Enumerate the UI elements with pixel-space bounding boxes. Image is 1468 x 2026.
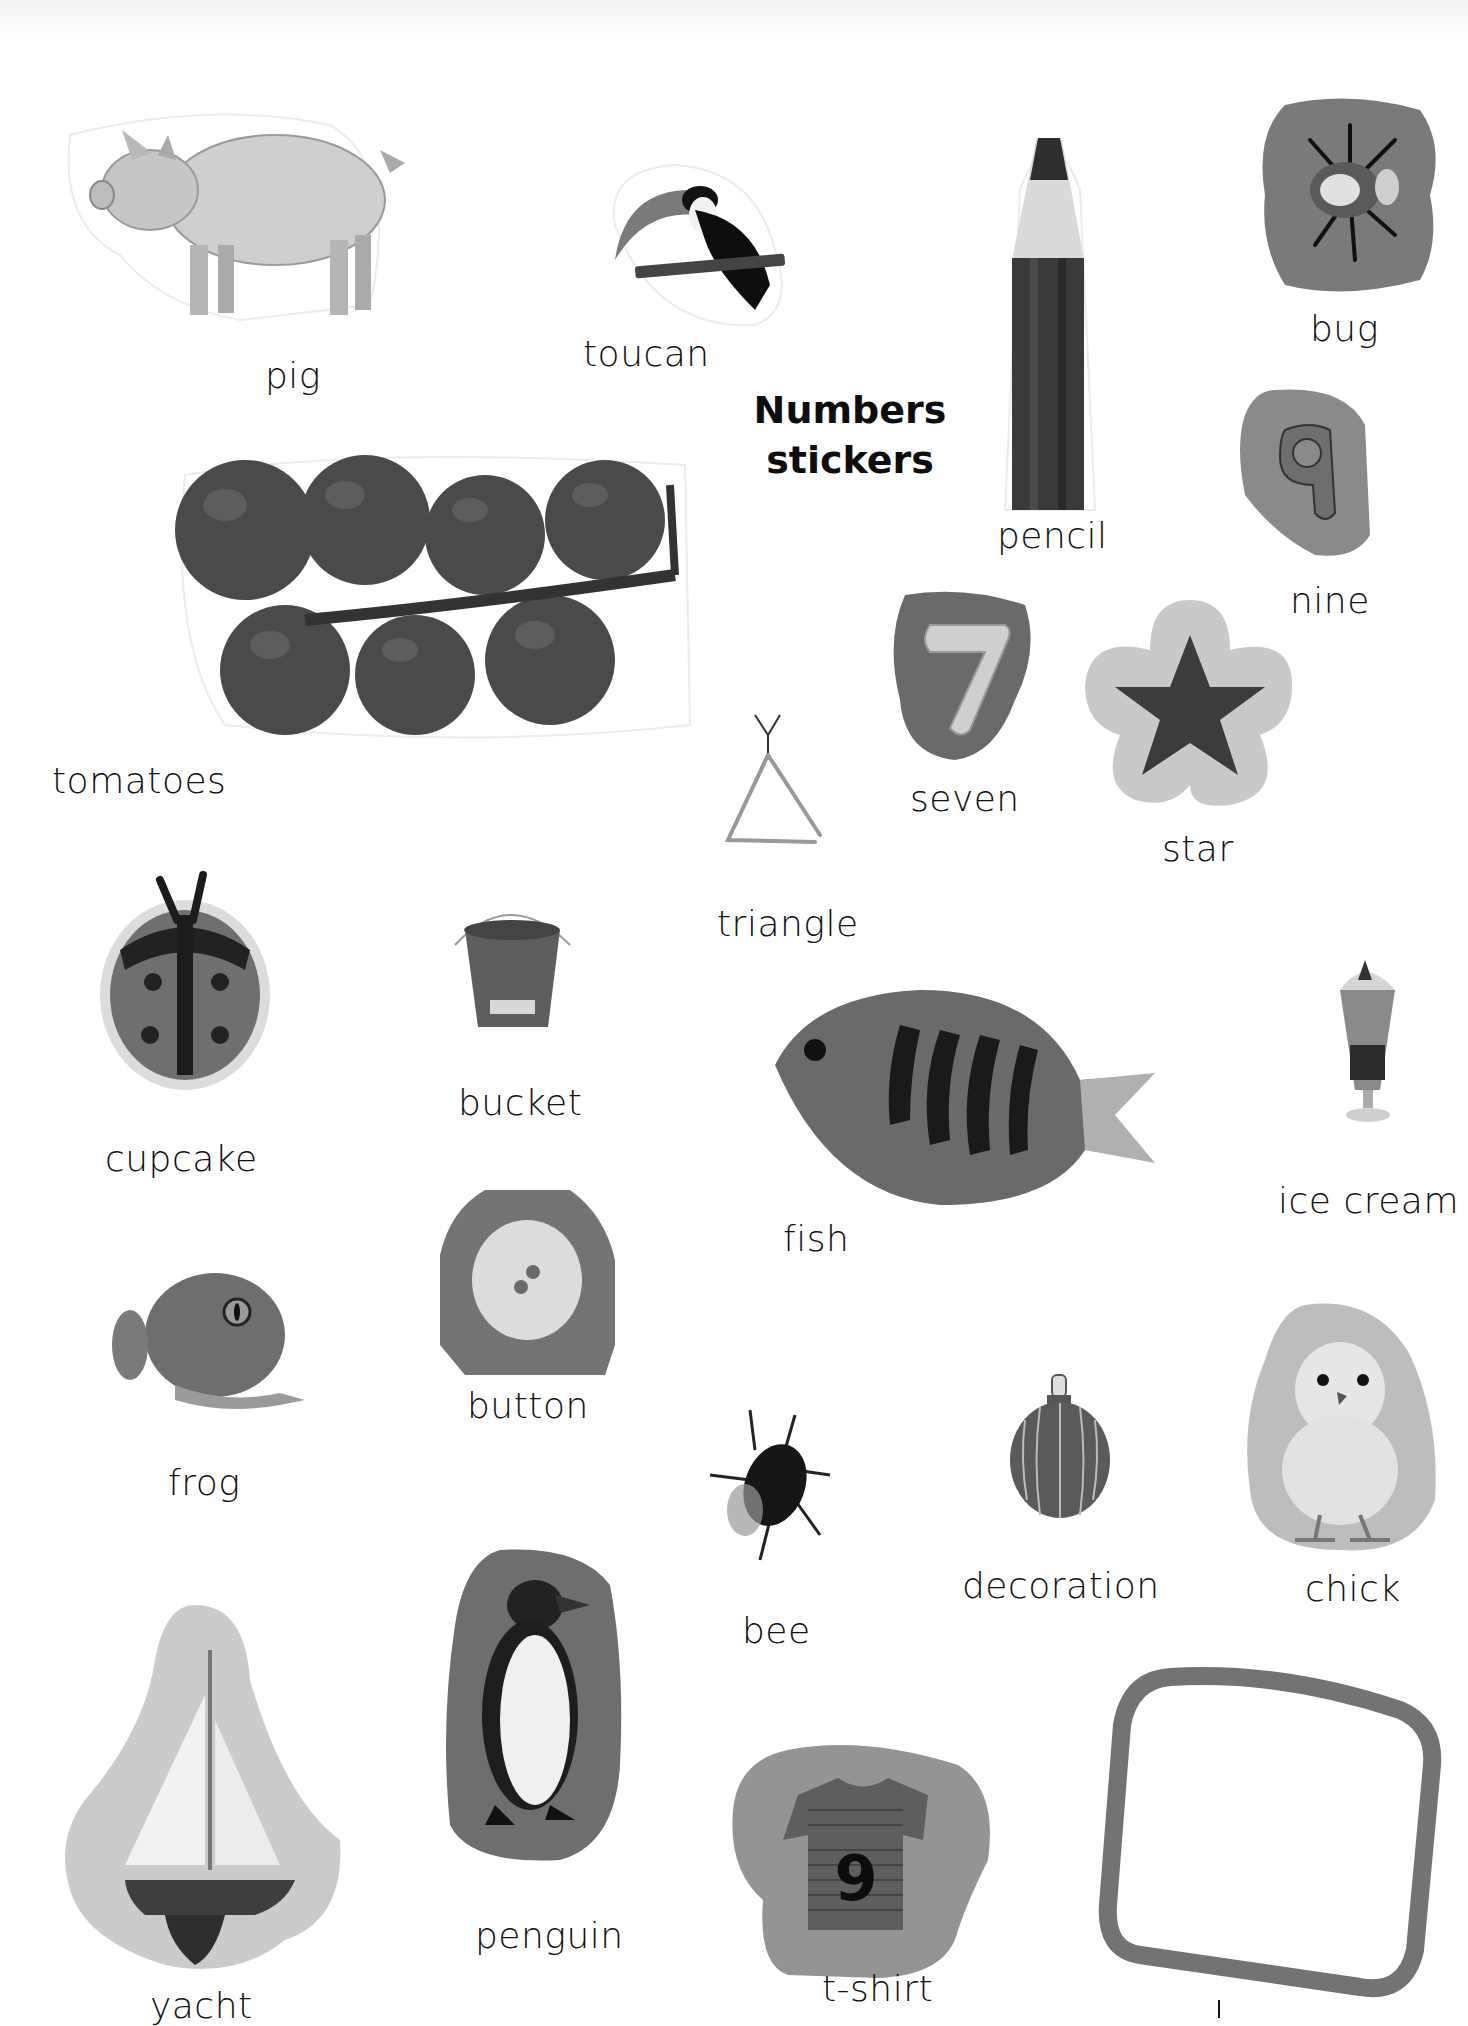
label-toucan: toucan (583, 333, 710, 374)
sticker-bucket[interactable] (450, 915, 575, 1035)
penguin-icon (440, 1545, 625, 1865)
label-star: star (1162, 828, 1234, 869)
label-chick: chick (1305, 1568, 1401, 1609)
label-cupcake: cupcake (105, 1138, 258, 1179)
label-tshirt: t-shirt (822, 1968, 933, 2009)
star-icon (1080, 595, 1300, 810)
label-bee: bee (742, 1610, 811, 1651)
bucket-icon (450, 915, 575, 1035)
sticker-tomatoes[interactable] (165, 445, 700, 745)
label-bucket: bucket (458, 1082, 582, 1123)
label-triangle: triangle (717, 903, 859, 944)
pencil-icon (1000, 130, 1100, 510)
sticker-decoration[interactable] (1005, 1370, 1115, 1520)
sticker-seven[interactable] (885, 590, 1035, 765)
ladybird-cupcake-icon (95, 875, 280, 1090)
label-penguin: penguin (475, 1915, 624, 1956)
sticker-star[interactable] (1080, 595, 1300, 810)
tomatoes-icon (165, 445, 700, 745)
sticker-nine[interactable] (1235, 385, 1375, 560)
label-square-frame-partial (1218, 2000, 1220, 2018)
page-title: Numbers stickers (730, 385, 970, 485)
triangle-instrument-icon (720, 710, 835, 855)
yacht-icon (55, 1600, 345, 1975)
label-button: button (467, 1385, 589, 1426)
label-yacht: yacht (150, 1985, 253, 2026)
sticker-toucan[interactable] (595, 160, 805, 335)
square-frame-icon (1100, 1665, 1440, 2010)
label-fish: fish (783, 1218, 849, 1259)
sticker-bug[interactable] (1255, 95, 1445, 295)
sticker-cupcake[interactable] (95, 875, 280, 1090)
sticker-bee[interactable] (710, 1400, 835, 1560)
sticker-pencil[interactable] (1000, 130, 1100, 510)
sticker-frog[interactable] (105, 1265, 320, 1415)
chick-icon (1245, 1300, 1440, 1555)
toucan-icon (595, 160, 805, 335)
label-pencil: pencil (997, 515, 1108, 556)
sticker-tshirt[interactable]: 9 (728, 1740, 998, 1980)
bee-icon (710, 1400, 835, 1560)
tshirt-number: 9 (834, 1842, 877, 1915)
button-icon (435, 1185, 620, 1375)
sticker-pig[interactable] (60, 105, 440, 335)
sticker-button[interactable] (435, 1185, 620, 1375)
sticker-yacht[interactable] (55, 1600, 345, 1975)
label-frog: frog (168, 1462, 240, 1503)
label-seven: seven (910, 778, 1020, 819)
tshirt-icon: 9 (728, 1740, 998, 1980)
sticker-triangle[interactable] (720, 710, 835, 855)
sticker-ice-cream[interactable] (1330, 955, 1405, 1125)
label-nine: nine (1290, 580, 1370, 621)
number-nine-icon (1235, 385, 1375, 560)
title-line-2: stickers (730, 435, 970, 485)
pig-icon (60, 105, 440, 335)
frog-icon (105, 1265, 320, 1415)
sticker-fish[interactable] (770, 985, 1160, 1210)
bauble-decoration-icon (1005, 1370, 1115, 1520)
label-pig: pig (265, 355, 321, 396)
ice-cream-sundae-icon (1330, 955, 1405, 1125)
sticker-penguin[interactable] (440, 1545, 625, 1865)
label-tomatoes: tomatoes (52, 760, 226, 801)
bug-icon (1255, 95, 1445, 295)
label-decoration: decoration (962, 1565, 1160, 1606)
number-seven-icon (885, 590, 1035, 765)
label-ice-cream: ice cream (1278, 1180, 1459, 1221)
sticker-square-frame[interactable] (1100, 1665, 1440, 2010)
label-bug: bug (1310, 308, 1379, 349)
fish-icon (770, 985, 1160, 1210)
title-line-1: Numbers (730, 385, 970, 435)
sticker-chick[interactable] (1245, 1300, 1440, 1555)
